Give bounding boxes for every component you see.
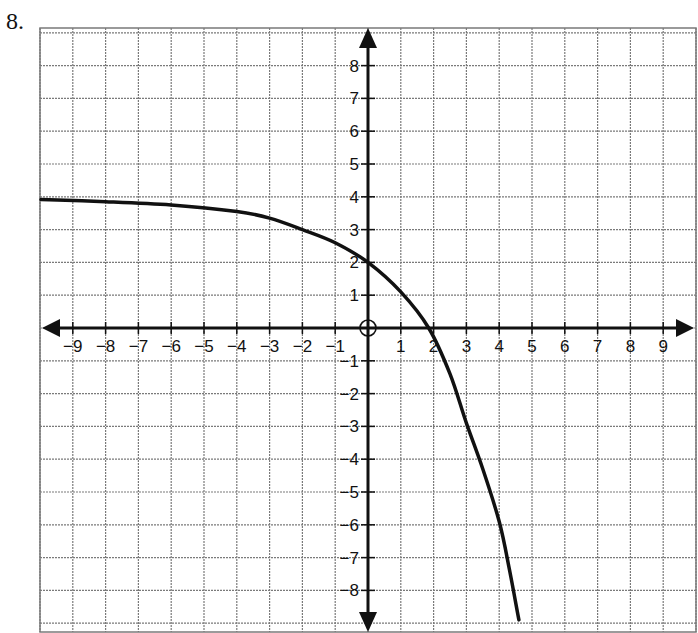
y-tick-label: −1	[340, 352, 359, 371]
y-axis-down-arrow-icon	[359, 612, 377, 632]
y-tick-label: 6	[350, 122, 359, 141]
x-tick-label: −7	[129, 337, 148, 356]
y-tick-label: −7	[340, 549, 359, 568]
axes	[42, 28, 694, 632]
y-tick-label: −4	[340, 450, 359, 469]
x-tick-label: −8	[96, 337, 115, 356]
x-tick-label: −3	[260, 337, 279, 356]
x-tick-label: 7	[593, 337, 602, 356]
y-tick-label: −5	[340, 483, 359, 502]
x-tick-label: −2	[293, 337, 312, 356]
y-tick-label: −3	[340, 417, 359, 436]
y-tick-label: 7	[350, 89, 359, 108]
y-tick-label: 8	[350, 57, 359, 76]
y-axis-up-arrow-icon	[359, 28, 377, 48]
y-tick-label: 5	[350, 155, 359, 174]
x-tick-label: 4	[494, 337, 503, 356]
y-tick-label: −2	[340, 385, 359, 404]
x-tick-label: 3	[462, 337, 471, 356]
coordinate-plane: −9−8−7−6−5−4−3−2−112345678987654321−1−2−…	[0, 0, 698, 633]
x-tick-label: −5	[194, 337, 213, 356]
x-tick-label: 5	[527, 337, 536, 356]
x-tick-label: 1	[396, 337, 405, 356]
y-tick-label: −8	[340, 581, 359, 600]
x-tick-label: 9	[658, 337, 667, 356]
y-tick-label: 3	[350, 221, 359, 240]
y-tick-label: 4	[350, 188, 359, 207]
y-tick-label: 1	[350, 286, 359, 305]
x-tick-label: 6	[560, 337, 569, 356]
y-tick-label: −6	[340, 516, 359, 535]
x-tick-label: −9	[63, 337, 82, 356]
x-tick-label: −6	[162, 337, 181, 356]
x-tick-label: 8	[626, 337, 635, 356]
x-axis-right-arrow-icon	[676, 319, 694, 337]
x-tick-label: −4	[227, 337, 246, 356]
x-axis-left-arrow-icon	[42, 319, 60, 337]
